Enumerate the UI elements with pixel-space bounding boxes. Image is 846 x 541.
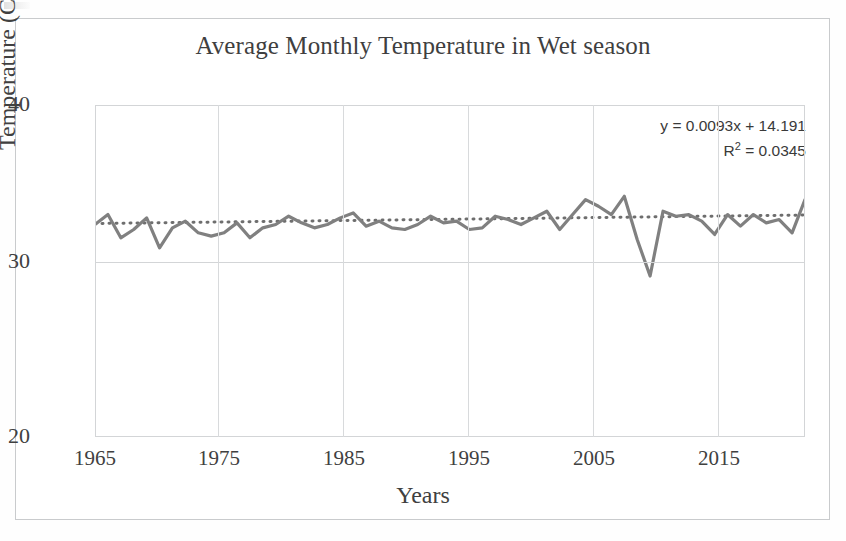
gridline-x-1975 <box>218 105 219 437</box>
x-tick-label-1975: 1975 <box>174 446 264 471</box>
x-axis-title: Years <box>0 482 846 509</box>
x-tick-label-1995: 1995 <box>424 446 514 471</box>
y-tick-text-30: 30 <box>0 248 30 274</box>
plot-area <box>95 105 805 437</box>
y-tick-label-40: 40 <box>0 105 30 131</box>
gridline-y-30 <box>95 262 805 263</box>
figure-root: Average Monthly Temperature in Wet seaso… <box>0 0 846 541</box>
gridline-x-2005 <box>593 105 594 437</box>
x-tick-label-1965: 1965 <box>50 446 140 471</box>
plot-frame <box>95 105 805 437</box>
y-tick-label-30: 30 <box>0 262 30 288</box>
x-tick-label-2005: 2005 <box>549 446 639 471</box>
gridline-x-1995 <box>468 105 469 437</box>
gridline-x-2015 <box>718 105 719 437</box>
chart-title: Average Monthly Temperature in Wet seaso… <box>0 32 846 60</box>
gridline-y-40 <box>95 105 805 106</box>
y-tick-text-40: 40 <box>0 91 30 117</box>
y-tick-label-20: 20 <box>0 437 30 463</box>
gridline-x-1985 <box>343 105 344 437</box>
y-tick-text-20: 20 <box>0 423 30 449</box>
x-tick-label-1985: 1985 <box>299 446 389 471</box>
gridline-y-20 <box>95 436 805 437</box>
x-tick-label-2015: 2015 <box>674 446 764 471</box>
